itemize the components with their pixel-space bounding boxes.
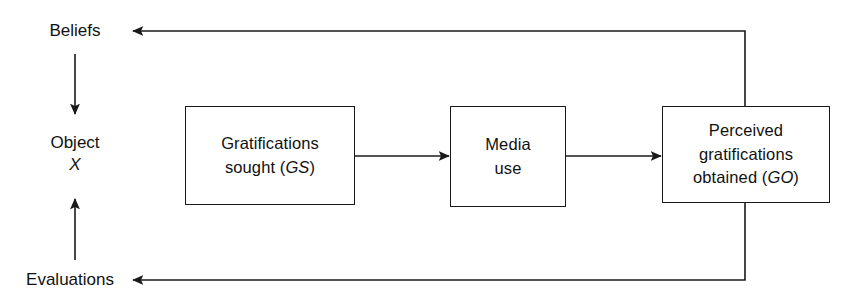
box-perceived-gratifications-obtained-line2: gratifications xyxy=(699,143,793,166)
box-media-use-line2: use xyxy=(495,157,522,180)
box-gratifications-sought: Gratifications sought (GS) xyxy=(185,106,355,205)
label-evaluations: Evaluations xyxy=(26,269,114,290)
box-perceived-gratifications-obtained-line3-tail: ) xyxy=(793,168,799,186)
label-object-text: Object xyxy=(50,132,99,154)
connector-go-feedback-to-evaluations xyxy=(133,203,745,280)
label-evaluations-text: Evaluations xyxy=(26,270,114,289)
label-beliefs-text: Beliefs xyxy=(49,21,100,40)
box-media-use-line1: Media xyxy=(485,133,530,156)
connector-go-feedback-to-beliefs xyxy=(133,31,745,106)
box-media-use: Media use xyxy=(450,106,566,207)
box-perceived-gratifications-obtained-line3: obtained (GO) xyxy=(693,166,799,189)
box-perceived-gratifications-obtained-line3-text: obtained ( xyxy=(693,168,767,186)
label-object-variable: X xyxy=(69,154,80,176)
box-gratifications-sought-line2-tail: ) xyxy=(309,158,315,176)
box-gratifications-sought-line1: Gratifications xyxy=(221,132,319,155)
diagram-canvas: Beliefs Object X Evaluations Gratificati… xyxy=(0,0,862,301)
box-perceived-gratifications-obtained-abbr: GO xyxy=(767,168,793,186)
label-object: Object X xyxy=(50,132,99,176)
box-gratifications-sought-line2-text: sought ( xyxy=(225,158,285,176)
box-perceived-gratifications-obtained-line1: Perceived xyxy=(709,119,783,142)
box-perceived-gratifications-obtained: Perceived gratifications obtained (GO) xyxy=(662,106,830,203)
box-gratifications-sought-abbr: GS xyxy=(285,158,309,176)
label-beliefs: Beliefs xyxy=(49,20,100,41)
box-gratifications-sought-line2: sought (GS) xyxy=(225,156,315,179)
